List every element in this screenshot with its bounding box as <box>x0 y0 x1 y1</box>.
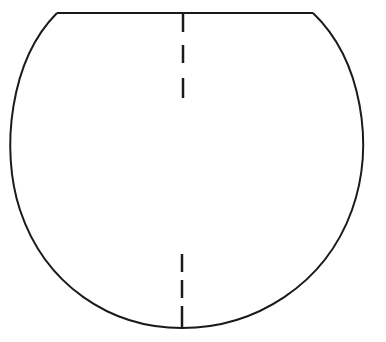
diagram-canvas <box>0 0 386 342</box>
circle-arc <box>10 13 363 328</box>
truncated-circle-diagram <box>0 0 386 342</box>
